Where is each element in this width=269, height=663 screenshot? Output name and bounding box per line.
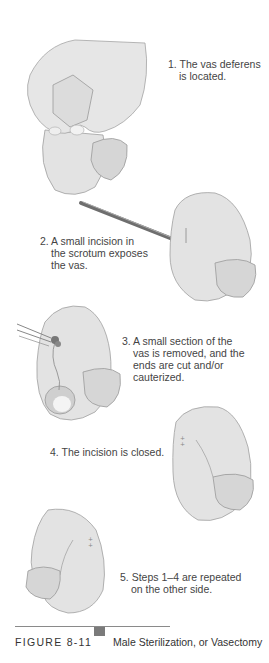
step-number: 5.	[120, 571, 129, 583]
step-number: 4.	[50, 446, 59, 458]
step-5-line-2: on the other side.	[120, 583, 241, 595]
illustration-step-4-incision-closed: + +	[168, 402, 263, 527]
step-line: Steps 1–4 are repeated	[132, 571, 242, 583]
step-line: A small incision in	[51, 235, 134, 247]
step-line: The incision is closed.	[62, 446, 165, 458]
step-5-text: 5. Steps 1–4 are repeated on the other s…	[120, 571, 241, 595]
step-2-line-3: the vas.	[40, 259, 148, 271]
figure-label: FIGURE 8-11	[15, 636, 92, 648]
step-2-line-1: 2. A small incision in	[40, 235, 148, 247]
step-3-line-1: 3. A small section of the	[122, 335, 244, 347]
step-number: 1.	[168, 58, 177, 70]
step-line: The vas deferens	[180, 58, 261, 70]
figure-title: Male Sterilization, or Vasectomy	[113, 636, 262, 648]
step-number: 3.	[122, 335, 131, 347]
step-line: A small section of the	[133, 335, 232, 347]
step-number: 2.	[40, 235, 49, 247]
svg-text:+: +	[180, 440, 185, 447]
step-1-line-2: is located.	[168, 70, 261, 82]
step-4-text: 4. The incision is closed.	[50, 446, 164, 458]
step-3-line-3: ends are cut and/or	[122, 359, 244, 371]
illustration-step-5-other-side: + +	[18, 505, 113, 620]
step-4-line-1: 4. The incision is closed.	[50, 446, 164, 458]
step-3-line-4: cauterized.	[122, 371, 244, 383]
step-3-line-2: vas is removed, and the	[122, 347, 244, 359]
illustration-step-3-vas-removed	[15, 302, 125, 427]
step-5-line-1: 5. Steps 1–4 are repeated	[120, 571, 241, 583]
step-2-line-2: the scrotum exposes	[40, 247, 148, 259]
caption-rule	[15, 626, 170, 627]
step-2-text: 2. A small incision in the scrotum expos…	[40, 235, 148, 271]
svg-text:+: +	[88, 541, 93, 548]
step-1-text: 1. The vas deferens is located.	[168, 58, 261, 82]
step-1-line-1: 1. The vas deferens	[168, 58, 261, 70]
step-3-text: 3. A small section of the vas is removed…	[122, 335, 244, 383]
illustration-step-1-hand-locating-vas	[15, 35, 150, 200]
caption-accent-box	[94, 627, 105, 636]
